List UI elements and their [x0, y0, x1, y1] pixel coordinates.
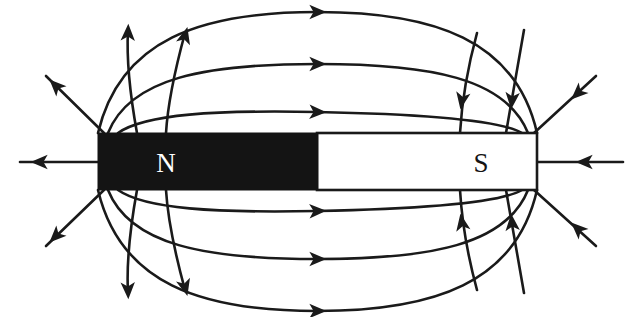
south-pole-label: S: [473, 148, 488, 178]
bar-magnet-field-diagram: NS: [0, 0, 643, 317]
north-pole-label: N: [156, 148, 176, 178]
field-line-canvas: NS: [0, 0, 643, 317]
magnet-north-pole: [98, 133, 317, 190]
magnet-south-pole: [317, 133, 537, 190]
